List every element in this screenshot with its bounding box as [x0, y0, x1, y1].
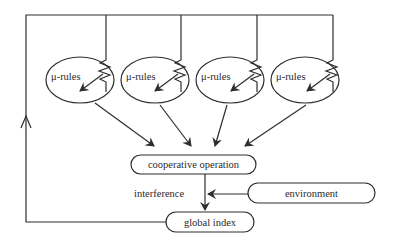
- interference-label: interference: [134, 188, 184, 199]
- rule-to-coop-arrows: [95, 103, 306, 146]
- rule-node-2[interactable]: μ-rules: [121, 57, 189, 103]
- rule-input-4: [307, 15, 337, 92]
- interference-edge: interference: [134, 174, 205, 210]
- cooperative-operation-node[interactable]: cooperative operation: [131, 155, 256, 174]
- rule-node-label: μ-rules: [201, 71, 231, 82]
- rule-input-2: [155, 15, 185, 92]
- rule-node-label: μ-rules: [51, 71, 81, 82]
- rule-node-label: μ-rules: [276, 71, 306, 82]
- environment-node[interactable]: environment: [248, 183, 375, 203]
- rule-node-1[interactable]: μ-rules: [46, 57, 114, 103]
- environment-label: environment: [285, 188, 338, 199]
- cooperative-operation-label: cooperative operation: [148, 159, 240, 170]
- rule-input-3: [231, 15, 261, 92]
- rule-input-1: [80, 15, 110, 92]
- global-index-label: global index: [184, 217, 237, 228]
- global-index-node[interactable]: global index: [166, 212, 254, 232]
- diagram-canvas: μ-rules μ-rules μ-rules μ-rules cooperat…: [0, 0, 395, 245]
- rule-node-label: μ-rules: [126, 71, 156, 82]
